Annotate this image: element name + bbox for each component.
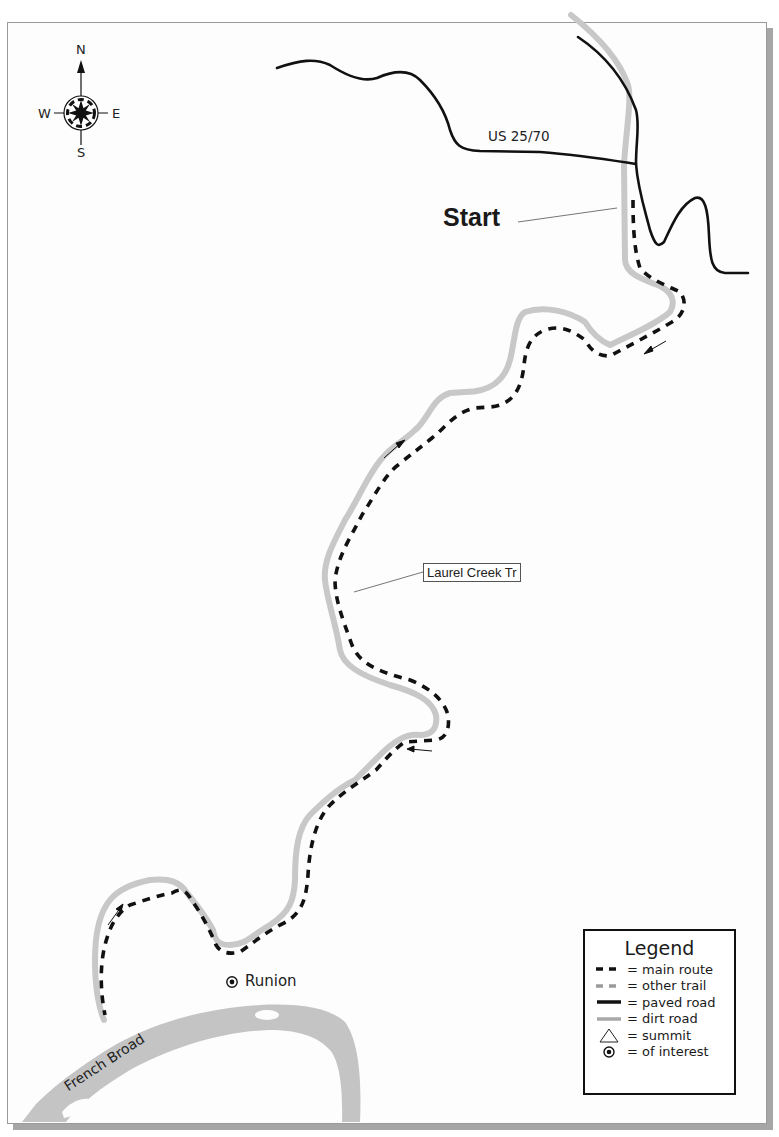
compass-east-label: E: [112, 106, 120, 121]
dirt-road: [95, 15, 673, 1020]
legend-box: Legend = main route = other trail = pave…: [583, 929, 736, 1095]
legend-title: Legend: [593, 937, 726, 959]
start-leader-line: [518, 208, 617, 222]
legend-item-dirt-road: = dirt road: [593, 1011, 726, 1028]
legend-item-of-interest: = of interest: [593, 1044, 726, 1061]
compass-west-label: W: [38, 106, 51, 121]
main-route: [101, 200, 684, 1015]
legend-item-paved-road: = paved road: [593, 994, 726, 1011]
paved-road-us-25-70: [277, 61, 636, 164]
direction-arrows: [108, 341, 666, 925]
trail-leader-line: [354, 572, 423, 592]
dirt-road-symbol-icon: [593, 1012, 625, 1026]
legend-item-other-trail: = other trail: [593, 978, 726, 995]
summit-triangle-icon: [593, 1028, 625, 1042]
start-label: Start: [443, 203, 500, 232]
of-interest-symbol-icon: [593, 1045, 625, 1059]
poi-label-runion: Runion: [245, 972, 297, 990]
compass-north-label: N: [76, 42, 86, 57]
river-french-broad: [22, 1005, 360, 1122]
paved-road-east: [578, 37, 748, 273]
trail-label-laurel-creek: Laurel Creek Tr: [423, 563, 521, 582]
paved-road-symbol-icon: [593, 995, 625, 1009]
legend-item-main-route: = main route: [593, 961, 726, 978]
paved-roads: [277, 37, 748, 273]
compass-south-label: S: [77, 145, 85, 160]
legend-item-summit: = summit: [593, 1027, 726, 1044]
main-route-symbol-icon: [593, 962, 625, 976]
poi-marker-icon: [227, 977, 237, 987]
compass-rose-icon: [54, 60, 108, 145]
road-label-us-25-70: US 25/70: [488, 128, 550, 144]
other-trail-symbol-icon: [593, 979, 625, 993]
